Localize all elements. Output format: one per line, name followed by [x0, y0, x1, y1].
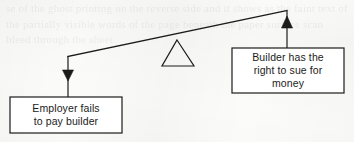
left-arrowhead-down-icon [63, 70, 74, 81]
fulcrum-triangle [162, 40, 194, 66]
diagram-canvas: se of the ghost printing on the reverse … [0, 0, 354, 142]
right-box [232, 48, 344, 93]
diagram-vector-layer [0, 0, 354, 142]
left-box [10, 97, 122, 133]
right-arrowhead-up-icon [282, 16, 293, 28]
